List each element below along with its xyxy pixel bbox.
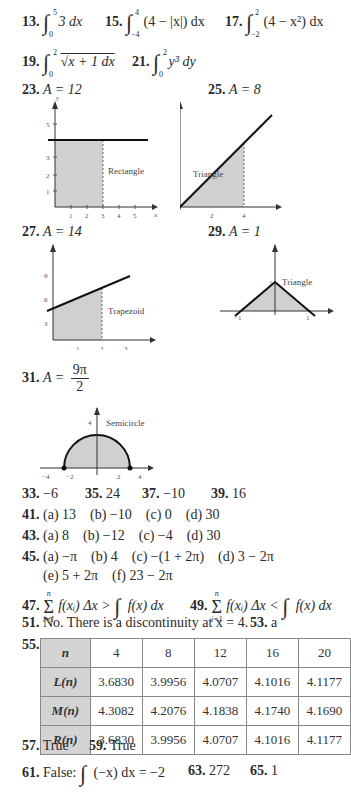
answer-55: 55. xyxy=(22,637,40,653)
svg-text:2: 2 xyxy=(117,473,121,481)
answer-21: 21. ∫ 2 0 y³ dy xyxy=(132,52,196,74)
answer-53: 53. a xyxy=(250,615,277,631)
integral-sign: ∫ xyxy=(80,763,86,785)
answer-59: 59. True xyxy=(89,738,136,754)
graph-27-trapezoid: 123 369 Trapezoid xyxy=(0,240,180,350)
answer-39: 39. 16 xyxy=(211,486,246,502)
graph-31-semicircle: −4−2244 Semicircle xyxy=(30,400,160,485)
svg-text:2: 2 xyxy=(85,212,89,220)
svg-text:3: 3 xyxy=(46,154,50,162)
svg-text:Rectangle: Rectangle xyxy=(108,166,144,176)
answer-31: 31. A = 9π 2 xyxy=(22,362,89,395)
svg-text:3: 3 xyxy=(101,212,105,220)
svg-text:2: 2 xyxy=(210,212,214,220)
svg-text:4: 4 xyxy=(242,212,246,220)
answer-51: 51. No. There is a discontinuity at x = … xyxy=(22,615,248,631)
svg-text:−1: −1 xyxy=(234,314,242,320)
answer-45: 45. (a) −π (b) 4 (c) −(1 + 2π) (d) 3 − 2… xyxy=(22,549,274,565)
answer-57: 57. True xyxy=(22,738,69,754)
svg-text:−4: −4 xyxy=(42,473,50,481)
table-row: R(n) 3.6830 3.9956 4.0707 4.1016 4.1177 xyxy=(41,726,351,755)
svg-text:2: 2 xyxy=(46,172,50,180)
svg-text:4: 4 xyxy=(88,419,92,427)
answer-17: 17. ∫ 2 −2 (4 − x²) dx xyxy=(225,12,323,34)
answer-65: 65. 1 xyxy=(250,763,278,779)
svg-text:1: 1 xyxy=(69,212,73,220)
answer-13: 13. ∫ 5 0 3 dx xyxy=(22,12,82,34)
svg-text:Trapezoid: Trapezoid xyxy=(108,306,145,316)
answer-63: 63. 272 xyxy=(188,763,230,779)
svg-text:x: x xyxy=(153,211,158,219)
table-header-row: n 4 8 12 16 20 xyxy=(41,639,351,668)
answer-43: 43. (a) 8 (b) −12 (c) −4 (d) 30 xyxy=(22,528,221,544)
svg-text:Triangle: Triangle xyxy=(282,277,312,287)
svg-text:3: 3 xyxy=(124,345,128,350)
answer-19: 19. ∫ 2 0 √x + 1 dx xyxy=(22,52,115,74)
svg-text:3: 3 xyxy=(44,320,48,328)
integral-sign: ∫ xyxy=(282,596,288,618)
table-row: M(n) 4.3082 4.2076 4.1838 4.1740 4.1690 xyxy=(41,697,351,726)
answer-61: 61. False: ∫ (−x) dx = −2 xyxy=(22,763,165,785)
svg-text:Semicircle: Semicircle xyxy=(106,418,144,428)
fraction: 9π 2 xyxy=(71,362,89,395)
answer-41: 41. (a) 13 (b) −10 (c) 0 (d) 30 xyxy=(22,507,220,523)
svg-text:y: y xyxy=(55,95,60,102)
svg-text:6: 6 xyxy=(44,296,48,304)
svg-text:5: 5 xyxy=(133,212,137,220)
graph-25-triangle: 24 24 Triangle xyxy=(180,95,351,220)
answer-35: 35. 24 xyxy=(85,486,120,502)
riemann-sum-table: n 4 8 12 16 20 L(n) 3.6830 3.9956 4.0707… xyxy=(40,638,351,755)
answer-29: 29. A = 1 xyxy=(208,224,261,240)
svg-text:−2: −2 xyxy=(66,473,74,481)
svg-text:1: 1 xyxy=(46,188,50,196)
answer-45-continued: (e) 5 + 2π (f) 23 − 2π xyxy=(43,568,172,584)
svg-text:2: 2 xyxy=(100,345,104,350)
answer-37: 37. −10 xyxy=(142,486,185,502)
svg-text:9: 9 xyxy=(44,272,48,280)
svg-text:Triangle: Triangle xyxy=(193,169,223,179)
svg-text:1: 1 xyxy=(306,314,310,320)
svg-text:1: 1 xyxy=(76,345,80,350)
svg-text:4: 4 xyxy=(138,473,142,481)
graph-23-rectangle: 12345 1235 yx Rectangle xyxy=(0,95,180,220)
table-row: L(n) 3.6830 3.9956 4.0707 4.1016 4.1177 xyxy=(41,668,351,697)
svg-text:4: 4 xyxy=(117,212,121,220)
svg-text:5: 5 xyxy=(46,121,50,129)
answer-27: 27. A = 14 xyxy=(22,224,82,240)
answer-15: 15. ∫ 4 −4 (4 − |x|) dx xyxy=(105,12,205,34)
svg-text:1: 1 xyxy=(269,279,273,287)
graph-29-triangle: −111 Triangle xyxy=(220,240,351,320)
answer-33: 33. −6 xyxy=(22,486,58,502)
